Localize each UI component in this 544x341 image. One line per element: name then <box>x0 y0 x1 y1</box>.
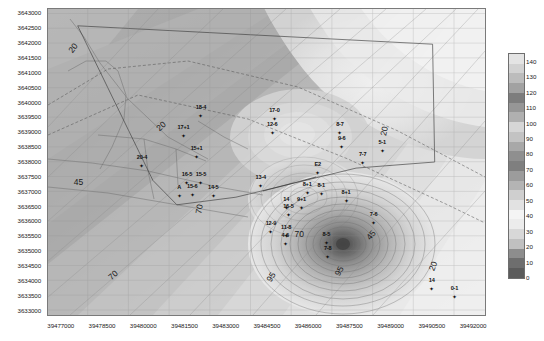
x-axis-tick: 39477000 <box>47 322 74 329</box>
colorbar-tick: 0 <box>526 274 529 281</box>
colorbar-tick: 110 <box>526 104 536 111</box>
well-marker-icon: ✦ <box>198 113 203 119</box>
y-axis-tick: 3636000 <box>18 217 41 224</box>
y-axis-tick: 3638000 <box>18 158 41 165</box>
contour-label: 45 <box>74 177 83 187</box>
well-marker-icon: ✦ <box>344 198 349 204</box>
well-label: 7-6 <box>370 211 378 217</box>
well-marker-icon: ✦ <box>270 130 275 136</box>
well-label: 9+1 <box>297 196 306 202</box>
well-label: 7-8 <box>324 245 332 251</box>
well-label: 9-6 <box>338 135 346 141</box>
well-marker-icon: ✦ <box>181 133 186 139</box>
y-axis-tick: 3634500 <box>18 261 41 268</box>
colorbar-tick: 70 <box>526 165 533 172</box>
well-label: 14 <box>429 277 435 283</box>
colorbar-tick: 10 <box>526 258 533 265</box>
x-axis-tick: 39483000 <box>212 322 239 329</box>
colorbar-tick-labels: 1401301201101009080706050403020100 <box>508 53 544 277</box>
colorbar-tick: 30 <box>526 227 533 234</box>
well-label: 15-6 <box>187 183 197 189</box>
well-marker-icon: ✦ <box>283 241 288 247</box>
y-axis-tick: 3636500 <box>18 202 41 209</box>
y-axis-tick: 3642000 <box>18 39 41 46</box>
y-axis-tick: 3638500 <box>18 143 41 150</box>
y-axis-tick: 3635500 <box>18 232 41 239</box>
colorbar-tick: 60 <box>526 181 533 188</box>
y-axis-tick: 3635000 <box>18 247 41 254</box>
well-marker-icon: ✦ <box>360 160 365 166</box>
x-axis-tick: 39486000 <box>295 322 322 329</box>
y-axis-tick: 3642500 <box>18 24 41 31</box>
well-label: 8+1 <box>342 189 351 195</box>
well-marker-icon: ✦ <box>268 229 273 235</box>
well-marker-icon: ✦ <box>198 180 203 186</box>
well-label: 16-5 <box>283 203 293 209</box>
x-axis-tick: 39484500 <box>253 322 280 329</box>
y-axis-tick: 3633000 <box>18 306 41 313</box>
contour-map-plot: 2020202045457070709595 18-4✦17+1✦15+1✦20… <box>47 8 486 316</box>
x-axis-tick: 39487500 <box>336 322 363 329</box>
well-label: 8-1 <box>317 182 325 188</box>
y-axis-tick: 3641500 <box>18 54 41 61</box>
colorbar-tick: 80 <box>526 150 533 157</box>
well-label: 20-4 <box>137 154 147 160</box>
well-label: 17+1 <box>178 124 190 130</box>
well-label: 8-7 <box>336 121 344 127</box>
y-axis-tick-labels: 3643000364250036420003641500364100036405… <box>0 0 44 341</box>
well-marker-icon: ✦ <box>319 191 324 197</box>
colorbar-tick: 120 <box>526 88 536 95</box>
well-label: 16-5 <box>182 171 192 177</box>
x-axis-tick: 39490500 <box>418 322 445 329</box>
well-label: 14-5 <box>208 184 218 190</box>
well-label: 11-8 <box>281 224 291 230</box>
well-label: 12-9 <box>266 220 276 226</box>
x-axis-tick: 39481500 <box>171 322 198 329</box>
well-label: 17-0 <box>269 107 279 113</box>
y-axis-tick: 3634000 <box>18 276 41 283</box>
well-marker-icon: ✦ <box>286 212 291 218</box>
y-axis-tick: 3637000 <box>18 187 41 194</box>
y-axis-tick: 3637500 <box>18 172 41 179</box>
well-marker-icon: ✦ <box>177 193 182 199</box>
well-marker-icon: ✦ <box>190 192 195 198</box>
well-label: 7-7 <box>359 151 367 157</box>
well-label: 0-1 <box>451 285 459 291</box>
y-axis-tick: 3639000 <box>18 128 41 135</box>
y-axis-tick: 3640500 <box>18 83 41 90</box>
y-axis-tick: 3639500 <box>18 113 41 120</box>
colorbar-tick: 90 <box>526 134 533 141</box>
well-marker-icon: ✦ <box>211 193 216 199</box>
well-label: 12-6 <box>267 121 277 127</box>
well-marker-icon: ✦ <box>325 254 330 260</box>
colorbar-tick: 20 <box>526 243 533 250</box>
well-marker-icon: ✦ <box>194 154 199 160</box>
x-axis-tick: 39489000 <box>377 322 404 329</box>
colorbar-tick: 40 <box>526 212 533 219</box>
colorbar-tick: 130 <box>526 73 536 80</box>
well-label: A <box>177 184 181 190</box>
well-marker-icon: ✦ <box>299 205 304 211</box>
y-axis-tick: 3640000 <box>18 98 41 105</box>
well-label: 8-5 <box>323 231 331 237</box>
x-axis-tick: 39478500 <box>89 322 116 329</box>
y-axis-tick: 3641000 <box>18 68 41 75</box>
figure-root: 3643000364250036420003641500364100036405… <box>0 0 544 341</box>
y-axis-tick: 3633500 <box>18 291 41 298</box>
well-marker-icon: ✦ <box>258 183 263 189</box>
well-marker-icon: ✦ <box>371 220 376 226</box>
x-axis-tick-labels: 3947700039478500394800003948150039483000… <box>0 322 544 336</box>
well-marker-icon: ✦ <box>380 148 385 154</box>
y-axis-tick: 3643000 <box>18 9 41 16</box>
well-label: 5-1 <box>379 139 387 145</box>
well-marker-icon: ✦ <box>139 163 144 169</box>
well-label: 14 <box>283 196 289 202</box>
well-label: E2 <box>314 161 320 167</box>
well-label: 4-6 <box>282 232 290 238</box>
colorbar-tick: 50 <box>526 196 533 203</box>
well-marker-icon: ✦ <box>315 170 320 176</box>
x-axis-tick: 39492000 <box>460 322 487 329</box>
colorbar-tick: 100 <box>526 119 536 126</box>
well-label: 8+1 <box>303 181 312 187</box>
well-label: 15+1 <box>191 145 203 151</box>
